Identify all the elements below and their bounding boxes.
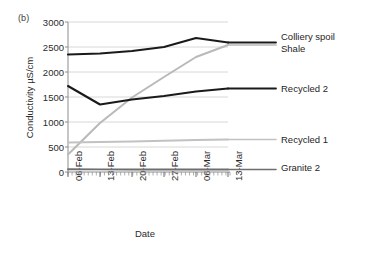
series-line-colliery-spoil (68, 38, 228, 55)
figure-panel: (b) Conductivity µS/cm Date 050010001500… (0, 0, 365, 253)
plot-area (0, 0, 365, 253)
series-line-recycled-2 (68, 86, 228, 105)
series-line-recycled-1 (68, 140, 228, 143)
